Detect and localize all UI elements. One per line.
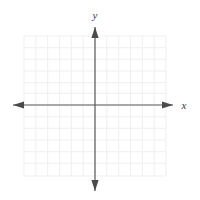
x-axis-arrow-left [13, 101, 24, 108]
y-axis [91, 27, 98, 191]
y-axis-arrow-up [91, 27, 98, 38]
x-axis [13, 101, 173, 108]
y-axis-label: y [92, 9, 98, 21]
coordinate-plane-svg: x y [0, 0, 200, 200]
x-axis-label: x [181, 99, 187, 111]
coordinate-plane-figure: x y [0, 0, 200, 200]
x-axis-arrow-right [162, 101, 173, 108]
y-axis-arrow-down [91, 180, 98, 191]
